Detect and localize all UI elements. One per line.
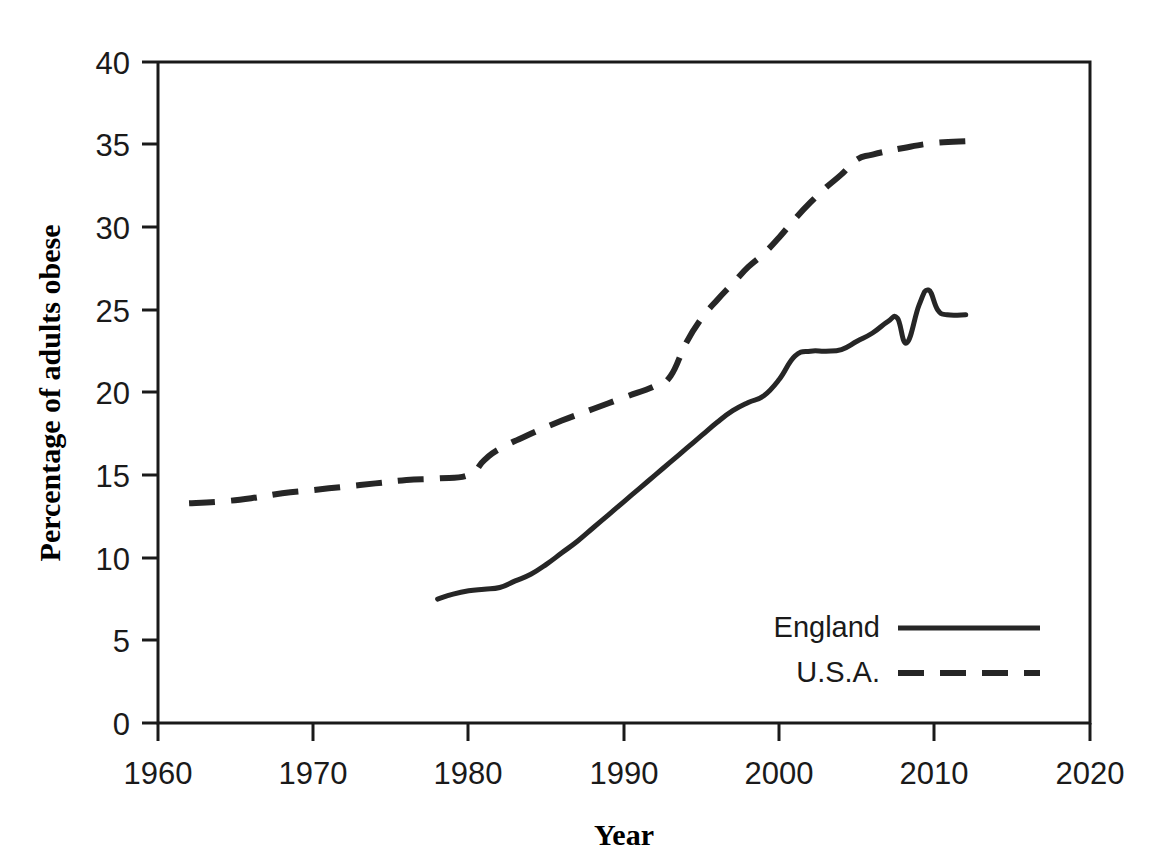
legend-label-england: England [774, 611, 880, 643]
y-tick-label-30: 30 [96, 211, 130, 246]
x-tick-label-1990: 1990 [590, 756, 659, 791]
chart-background [0, 0, 1176, 868]
legend-label-usa: U.S.A. [796, 656, 880, 688]
x-tick-label-1970: 1970 [279, 756, 348, 791]
chart-canvas: 40 35 30 25 20 15 10 5 0 1960 1970 1980 … [0, 0, 1176, 868]
obesity-trend-chart: 40 35 30 25 20 15 10 5 0 1960 1970 1980 … [0, 0, 1176, 868]
y-tick-label-20: 20 [96, 376, 130, 411]
x-tick-label-2020: 2020 [1056, 756, 1125, 791]
y-tick-label-25: 25 [96, 294, 130, 329]
y-axis-title: Percentage of adults obese [33, 225, 66, 562]
y-tick-label-40: 40 [96, 46, 130, 81]
y-tick-label-10: 10 [96, 542, 130, 577]
x-axis-title: Year [594, 818, 654, 851]
x-tick-label-1980: 1980 [434, 756, 503, 791]
y-tick-label-5: 5 [113, 624, 130, 659]
y-tick-label-0: 0 [113, 707, 130, 742]
x-tick-label-2000: 2000 [745, 756, 814, 791]
x-tick-label-1960: 1960 [124, 756, 193, 791]
x-tick-label-2010: 2010 [900, 756, 969, 791]
y-tick-label-15: 15 [96, 459, 130, 494]
y-tick-label-35: 35 [96, 128, 130, 163]
